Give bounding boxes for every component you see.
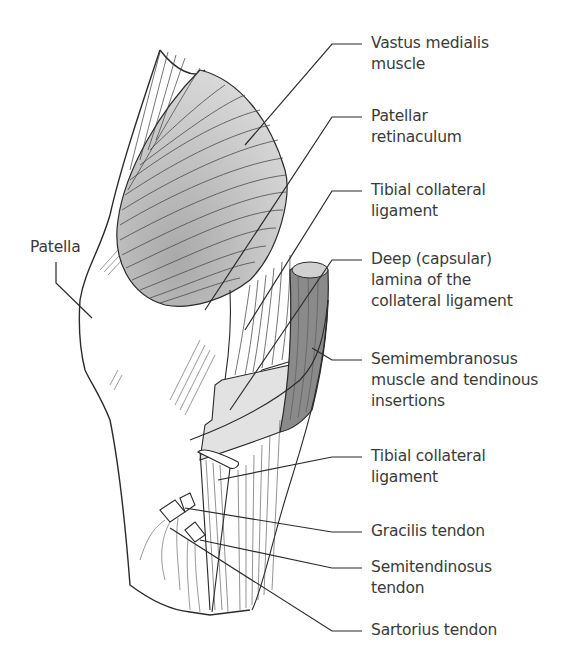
knee-anatomy-illustration xyxy=(0,0,585,662)
label-line: collateral ligament xyxy=(371,291,513,312)
label-tibial-collateral-upper: Tibial collateral ligament xyxy=(371,180,486,222)
label-line: Tibial collateral xyxy=(371,446,486,467)
label-deep-lamina: Deep (capsular) lamina of the collateral… xyxy=(371,249,513,312)
label-patella: Patella xyxy=(30,237,80,258)
label-line: muscle xyxy=(371,54,489,75)
label-line: tendon xyxy=(371,578,492,599)
label-line: retinaculum xyxy=(371,127,462,148)
label-line: ligament xyxy=(371,467,486,488)
label-patellar-retinaculum: Patellar retinaculum xyxy=(371,106,462,148)
label-semimembranosus: Semimembranosus muscle and tendinous ins… xyxy=(371,349,538,412)
label-line: muscle and tendinous xyxy=(371,370,538,391)
pes-anserinus-tendons xyxy=(140,493,205,612)
label-sartorius: Sartorius tendon xyxy=(371,620,497,641)
deep-capsular-lamina xyxy=(200,365,290,460)
label-gracilis: Gracilis tendon xyxy=(371,521,485,542)
label-line: Deep (capsular) xyxy=(371,249,513,270)
label-vastus-medialis: Vastus medialis muscle xyxy=(371,33,489,75)
label-line: ligament xyxy=(371,201,486,222)
vastus-medialis-muscle xyxy=(117,52,287,306)
label-line: Tibial collateral xyxy=(371,180,486,201)
semimembranosus-muscle xyxy=(280,262,328,432)
label-line: Vastus medialis xyxy=(371,33,489,54)
label-line: lamina of the xyxy=(371,270,513,291)
label-line: insertions xyxy=(371,391,538,412)
label-semitendinosus: Semitendinosus tendon xyxy=(371,557,492,599)
label-line: Semitendinosus xyxy=(371,557,492,578)
label-line: Patellar xyxy=(371,106,462,127)
label-line: Semimembranosus xyxy=(371,349,538,370)
label-tibial-collateral-lower: Tibial collateral ligament xyxy=(371,446,486,488)
